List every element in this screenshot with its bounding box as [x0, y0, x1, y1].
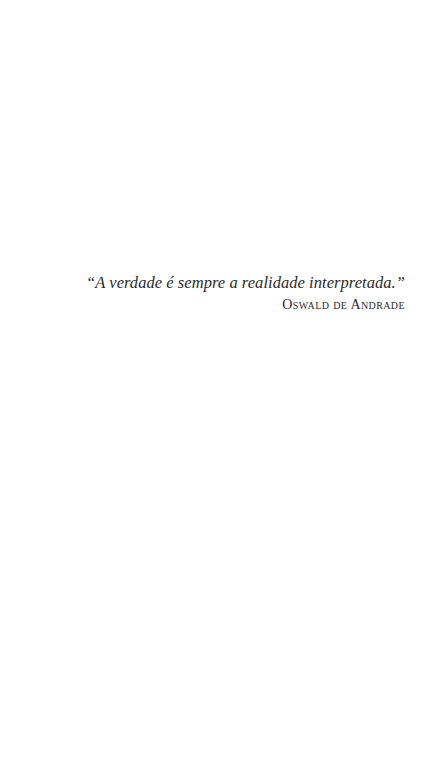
- epigraph-author: Oswald de Andrade: [86, 295, 405, 315]
- epigraph-quote: “A verdade é sempre a realidade interpre…: [86, 272, 405, 294]
- epigraph: “A verdade é sempre a realidade interpre…: [86, 272, 405, 315]
